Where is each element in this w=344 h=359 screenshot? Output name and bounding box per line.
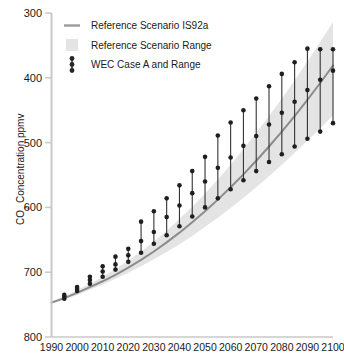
co2-concentration-chart: 800700600500400300 199020002010202020302… xyxy=(0,0,344,359)
wec-point-mid xyxy=(100,269,105,274)
x-axis-tick-label: 2050 xyxy=(193,341,217,353)
wec-point-mid xyxy=(152,230,157,235)
x-axis-tick-label: 2060 xyxy=(219,341,243,353)
y-axis-tick-label: 700 xyxy=(24,266,42,278)
wec-point-bottom xyxy=(75,289,80,294)
legend-label-wec-case-a-and-range: WEC Case A and Range xyxy=(91,59,201,70)
legend-errorbar-mid-dot xyxy=(70,62,75,67)
wec-point-bottom xyxy=(139,250,144,255)
wec-point-top xyxy=(267,84,272,89)
wec-point-top xyxy=(152,209,157,214)
wec-point-bottom xyxy=(331,121,336,126)
wec-point-bottom xyxy=(216,196,221,201)
legend-label-reference-scenario-is92a: Reference Scenario IS92a xyxy=(91,20,209,31)
wec-point-mid xyxy=(331,68,336,73)
wec-point-bottom xyxy=(280,152,285,157)
wec-point-mid xyxy=(241,144,246,149)
wec-point-bottom xyxy=(126,260,131,265)
x-axis-tick-label: 2090 xyxy=(296,341,320,353)
wec-point-mid xyxy=(228,155,233,160)
wec-point-bottom xyxy=(177,224,182,229)
wec-point-bottom xyxy=(292,144,297,149)
wec-point-bottom xyxy=(190,214,195,219)
wec-point-mid xyxy=(292,99,297,104)
x-axis-tick-label: 1990 xyxy=(40,341,64,353)
wec-error-bar xyxy=(88,274,93,286)
y-axis-tick-label: 400 xyxy=(24,72,42,84)
wec-point-mid xyxy=(216,166,221,171)
wec-point-top xyxy=(292,60,297,65)
wec-point-mid xyxy=(177,203,182,208)
wec-point-top xyxy=(139,219,144,224)
wec-point-top xyxy=(164,196,169,201)
wec-point-bottom xyxy=(152,241,157,246)
wec-point-top xyxy=(318,47,323,52)
wec-point-bottom xyxy=(305,136,310,141)
x-axis-tick-label: 2070 xyxy=(245,341,269,353)
wec-point-bottom xyxy=(241,178,246,183)
x-axis-tick-label: 2020 xyxy=(117,341,141,353)
wec-point-mid xyxy=(318,77,323,82)
wec-point-mid xyxy=(126,253,131,258)
wec-error-bar xyxy=(126,247,131,265)
wec-point-mid xyxy=(139,239,144,244)
y-axis-tick-label: 300 xyxy=(24,7,42,19)
wec-point-top xyxy=(305,46,310,51)
wec-point-mid xyxy=(267,122,272,127)
wec-point-top xyxy=(190,169,195,174)
wec-point-mid xyxy=(305,88,310,93)
wec-point-top xyxy=(228,120,233,125)
wec-point-bottom xyxy=(164,233,169,238)
wec-point-top xyxy=(203,155,208,160)
wec-point-top xyxy=(177,183,182,188)
wec-point-bottom xyxy=(318,129,323,134)
wec-point-top xyxy=(331,47,336,52)
legend-band-marker xyxy=(66,39,78,51)
wec-point-top xyxy=(280,72,285,77)
x-axis-tick-label: 2000 xyxy=(65,341,89,353)
wec-error-bar xyxy=(75,285,80,293)
wec-error-bar xyxy=(62,293,67,301)
x-axis-tick-label: 2030 xyxy=(142,341,166,353)
wec-point-bottom xyxy=(228,187,233,192)
wec-point-mid xyxy=(280,110,285,115)
wec-point-mid xyxy=(164,215,169,220)
wec-point-bottom xyxy=(203,205,208,210)
wec-error-bar xyxy=(100,264,105,279)
x-axis-tick-label: 2010 xyxy=(91,341,115,353)
x-axis-tick-label: 2100 xyxy=(321,341,344,353)
legend-label-reference-scenario-range: Reference Scenario Range xyxy=(91,40,212,51)
wec-point-bottom xyxy=(62,296,67,301)
wec-point-bottom xyxy=(254,169,259,174)
wec-point-top xyxy=(241,108,246,113)
x-axis-tick-label: 2080 xyxy=(270,341,294,353)
wec-point-bottom xyxy=(88,282,93,287)
wec-point-top xyxy=(100,264,105,269)
wec-point-bottom xyxy=(100,274,105,279)
wec-point-top xyxy=(254,96,259,101)
legend-errorbar-bottom-dot xyxy=(70,68,75,73)
y-axis-tick-label: 500 xyxy=(24,137,42,149)
x-axis-tick-label: 2040 xyxy=(168,341,192,353)
wec-point-mid xyxy=(203,179,208,184)
wec-point-top xyxy=(113,254,118,259)
wec-point-mid xyxy=(190,191,195,196)
wec-point-mid xyxy=(113,262,118,267)
wec-point-mid xyxy=(254,134,259,139)
wec-point-bottom xyxy=(113,267,118,272)
wec-point-bottom xyxy=(267,160,272,165)
legend-errorbar-top-dot xyxy=(70,56,75,61)
wec-error-bar xyxy=(113,254,118,272)
wec-point-top xyxy=(126,247,131,252)
wec-point-top xyxy=(216,133,221,138)
